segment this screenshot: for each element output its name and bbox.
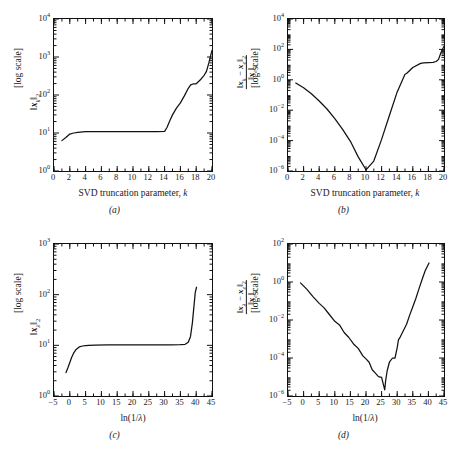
panel-b-xtick-label: 18 [423, 173, 432, 182]
panel-d-curve [288, 244, 446, 398]
panel-d-xtick-label: 35 [408, 398, 417, 407]
panel-d-xtick-label: 45 [439, 398, 448, 407]
panel-d-ytick-label: 102 [272, 239, 284, 248]
panel-b-xtick-label: 8 [347, 173, 351, 182]
panel-c-ytick-label: 103 [38, 239, 50, 248]
panel-d-caption: (d) [229, 430, 458, 440]
panel-a-logscale-label: [log scale] [14, 48, 24, 88]
panel-c: [log scale] ‖xλ‖2 ln(1/λ) (c) 1001011021… [0, 225, 229, 450]
panel-d-xtick-label: 0 [300, 398, 304, 407]
panel-d-xtick-label: 5 [316, 398, 320, 407]
panel-d-ylabel: ‖xλ − xe‖2 ‖xe‖2 [236, 262, 256, 332]
panel-c-xtick-label: 45 [207, 398, 216, 407]
panel-c-xtick-label: −5 [48, 398, 57, 407]
panel-b-ytick-label: 100 [272, 75, 284, 84]
panel-b-xtick-label: 0 [285, 173, 289, 182]
panel-b-xlabel: SVD truncation parameter, k [285, 188, 445, 198]
panel-a: [log scale] ‖xk‖2 SVD truncation paramet… [0, 0, 229, 225]
panel-b-ytick-label: 10−6 [269, 166, 284, 175]
panel-c-xtick-label: 5 [82, 398, 86, 407]
panel-a-caption: (a) [0, 205, 229, 215]
panel-a-ytick-label: 103 [38, 52, 50, 61]
panel-d-xtick-label: 15 [345, 398, 354, 407]
panel-a-xtick-label: 14 [159, 173, 168, 182]
panel-c-ytick-label: 101 [38, 340, 50, 349]
panel-d-plot-area [287, 243, 445, 397]
panel-a-xtick-label: 4 [82, 173, 86, 182]
panel-a-plot-area [53, 18, 213, 172]
panel-c-xtick-label: 20 [128, 398, 137, 407]
panel-d-xtick-label: −5 [282, 398, 291, 407]
panel-c-xtick-label: 35 [175, 398, 184, 407]
panel-c-xtick-label: 10 [96, 398, 105, 407]
panel-d-xtick-label: 25 [376, 398, 385, 407]
panel-b-xtick-label: 4 [316, 173, 320, 182]
panel-c-xlabel: ln(1/λ) [53, 413, 213, 423]
panel-b-ytick-label: 10−4 [269, 135, 284, 144]
panel-a-xtick-label: 20 [207, 173, 216, 182]
panel-c-logscale-label: [log scale] [14, 273, 24, 313]
panel-d: [log scale] ‖xλ − xe‖2 ‖xe‖2 ln(1/λ) (d)… [229, 225, 458, 450]
panel-b-xtick-label: 6 [332, 173, 336, 182]
panel-c-caption: (c) [0, 430, 229, 440]
panel-b-ytick-label: 104 [272, 14, 284, 23]
panel-d-xtick-label: 30 [392, 398, 401, 407]
panel-c-curve [54, 244, 214, 398]
panel-d-ytick-label: 10−4 [269, 353, 284, 362]
panel-a-ytick-label: 101 [38, 128, 50, 137]
panel-b-xtick-label: 14 [392, 173, 401, 182]
panel-c-ylabel: ‖xλ‖2 [30, 319, 40, 335]
panel-b-caption: (b) [229, 205, 458, 215]
panel-a-xtick-label: 8 [114, 173, 118, 182]
panel-a-xtick-label: 10 [128, 173, 137, 182]
panel-b-xtick-label: 20 [439, 173, 448, 182]
panel-a-xlabel: SVD truncation parameter, k [53, 188, 213, 198]
figure-container: [log scale] ‖xk‖2 SVD truncation paramet… [0, 0, 458, 450]
panel-d-xlabel: ln(1/λ) [285, 413, 445, 423]
panel-b-xtick-label: 2 [300, 173, 304, 182]
panel-c-xtick-label: 0 [67, 398, 71, 407]
panel-a-xtick-label: 0 [51, 173, 55, 182]
panel-a-xtick-label: 16 [175, 173, 184, 182]
panel-b-ytick-label: 102 [272, 44, 284, 53]
panel-b-xtick-label: 10 [361, 173, 370, 182]
panel-b-ylabel: ‖xk − xe‖2 ‖xe‖2 [236, 37, 256, 107]
panel-b-ytick-label: 10−2 [269, 105, 284, 114]
panel-c-plot-area [53, 243, 213, 397]
panel-d-xtick-label: 10 [330, 398, 339, 407]
panel-c-xtick-label: 15 [112, 398, 121, 407]
panel-a-ytick-label: 100 [38, 166, 50, 175]
panel-d-ytick-label: 100 [272, 277, 284, 286]
panel-c-xtick-label: 25 [144, 398, 153, 407]
panel-d-xtick-label: 40 [423, 398, 432, 407]
panel-d-xtick-label: 20 [361, 398, 370, 407]
panel-d-ytick-label: 10−2 [269, 315, 284, 324]
panel-b-curve [288, 19, 446, 173]
panel-c-ytick-label: 102 [38, 289, 50, 298]
panel-b-plot-area [287, 18, 445, 172]
panel-a-xtick-label: 12 [144, 173, 153, 182]
panel-b-xtick-label: 12 [376, 173, 385, 182]
panel-c-xtick-label: 30 [159, 398, 168, 407]
panel-a-curve [54, 19, 214, 173]
panel-a-xtick-label: 2 [67, 173, 71, 182]
panel-b-xtick-label: 16 [408, 173, 417, 182]
panel-a-xtick-label: 18 [191, 173, 200, 182]
panel-a-xtick-label: 6 [98, 173, 102, 182]
panel-b: [log scale] ‖xk − xe‖2 ‖xe‖2 SVD truncat… [229, 0, 458, 225]
panel-a-ytick-label: 104 [38, 14, 50, 23]
panel-c-xtick-label: 40 [191, 398, 200, 407]
panel-a-ytick-label: 102 [38, 90, 50, 99]
